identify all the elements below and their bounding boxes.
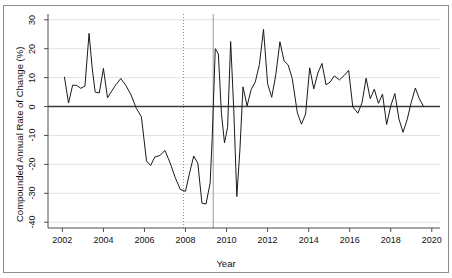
data-series-line bbox=[64, 29, 423, 204]
y-axis-label-wrapper: Compounded Annual Rate of Change (%) bbox=[0, 0, 18, 240]
y-tick-label--20: -20 bbox=[26, 154, 38, 174]
y-tick-label--40: -40 bbox=[26, 212, 38, 232]
x-tick-label-2010: 2010 bbox=[214, 235, 240, 245]
x-tick-label-2002: 2002 bbox=[49, 235, 75, 245]
y-tick-label-10: 10 bbox=[26, 68, 38, 88]
x-tick-label-2006: 2006 bbox=[131, 235, 157, 245]
x-axis-label: Year bbox=[0, 258, 452, 269]
x-tick-label-2008: 2008 bbox=[173, 235, 199, 245]
axis-ticks-group bbox=[44, 20, 432, 232]
axis-lines-group bbox=[48, 14, 440, 228]
x-tick-label-2004: 2004 bbox=[90, 235, 116, 245]
y-axis-label: Compounded Annual Rate of Change (%) bbox=[14, 47, 25, 222]
x-tick-label-2020: 2020 bbox=[419, 235, 445, 245]
gridlines-group bbox=[48, 20, 440, 222]
figure-container: Compounded Annual Rate of Change (%) Yea… bbox=[0, 0, 452, 278]
y-tick-label-0: 0 bbox=[26, 97, 38, 117]
y-tick-label-20: 20 bbox=[26, 39, 38, 59]
reference-lines-group bbox=[183, 14, 213, 228]
x-tick-label-2012: 2012 bbox=[255, 235, 281, 245]
x-tick-label-2018: 2018 bbox=[378, 235, 404, 245]
x-tick-label-2016: 2016 bbox=[337, 235, 363, 245]
y-tick-label--30: -30 bbox=[26, 183, 38, 203]
x-tick-label-2014: 2014 bbox=[296, 235, 322, 245]
y-tick-label--10: -10 bbox=[26, 125, 38, 145]
y-tick-label-30: 30 bbox=[26, 10, 38, 30]
